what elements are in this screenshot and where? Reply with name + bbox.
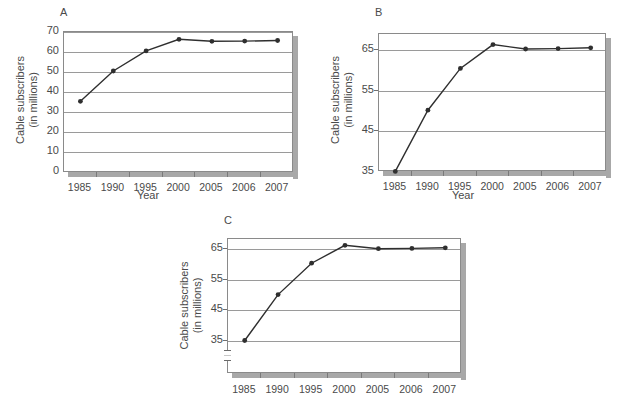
x-tick-label-c: 2007 (424, 383, 465, 395)
plot-wrap-b: 65 55 45 35 1985 1990 1995 2000 2005 200… (378, 33, 610, 176)
plot-area-b (378, 33, 606, 171)
y-tick-label-c: 35 (197, 333, 223, 345)
x-tick-mark-c (260, 373, 261, 378)
x-tick-mark-c (428, 373, 429, 378)
series-line-a (64, 32, 294, 173)
x-tick-mark-c (361, 373, 362, 378)
y-tick-mark-c (223, 340, 227, 341)
y-axis-title-line2-b: (in millions) (342, 72, 354, 128)
y-tick-mark-c (223, 279, 227, 280)
y-axis-title-line2-a: (in millions) (27, 72, 39, 128)
y-tick-label-a: 30 (33, 104, 59, 116)
y-axis-break-icon-c (224, 350, 231, 361)
y-tick-label-a: 60 (33, 44, 59, 56)
x-tick-mark-c (294, 373, 295, 378)
y-tick-mark-c (223, 248, 227, 249)
y-axis-title-a: Cable subscribers (in millions) (14, 40, 39, 160)
x-tick-mark-a (162, 172, 163, 177)
chart-panel-b: B Cable subscribers (in millions) 65 (313, 0, 626, 203)
y-tick-label-a: 40 (33, 84, 59, 96)
panel-label-c: C (224, 214, 232, 226)
chart-panel-c: C Cable subscribers (in millions) (186, 203, 499, 406)
y-axis-title-line1-b: Cable subscribers (329, 56, 341, 144)
y-tick-label-c: 65 (197, 241, 223, 253)
y-axis-title-b: Cable subscribers (in millions) (329, 40, 354, 160)
y-tick-mark-b (374, 130, 378, 131)
x-tick-mark-b (411, 171, 412, 176)
y-tick-mark-c (223, 309, 227, 310)
x-tick-label-b: 2007 (569, 180, 610, 192)
x-tick-mark-b (443, 171, 444, 176)
x-tick-mark-b (541, 171, 542, 176)
x-tick-mark-b (573, 171, 574, 176)
y-tick-label-b: 35 (348, 164, 374, 176)
panel-label-a: A (60, 6, 68, 18)
x-tick-mark-b (508, 171, 509, 176)
x-tick-mark-c (327, 373, 328, 378)
y-tick-label-c: 55 (197, 272, 223, 284)
plot-area-c (227, 238, 461, 373)
plot-wrap-a: 70 60 50 40 30 20 10 0 1985 1990 1995 20… (63, 31, 295, 174)
y-tick-label-b: 55 (348, 83, 374, 95)
y-tick-mark-b (374, 90, 378, 91)
y-axis-title-line1-c: Cable subscribers (178, 261, 190, 349)
y-tick-label-b: 65 (348, 42, 374, 54)
plot-area-a (63, 31, 293, 172)
x-tick-mark-c (394, 373, 395, 378)
x-axis-title-a: Year (118, 189, 178, 201)
x-tick-mark-a (260, 172, 261, 177)
x-tick-mark-a (96, 172, 97, 177)
series-line-b (379, 34, 607, 172)
y-tick-mark-b (374, 49, 378, 50)
series-line-c (228, 239, 462, 374)
x-tick-label-a: 2007 (256, 181, 297, 193)
x-tick-mark-a (129, 172, 130, 177)
y-tick-label-a: 70 (33, 24, 59, 36)
x-tick-mark-a (194, 172, 195, 177)
chart-panel-a: A Cable subscribers (in millions) (0, 0, 313, 203)
panel-label-b: B (375, 6, 383, 18)
y-tick-label-c: 45 (197, 302, 223, 314)
y-tick-label-a: 50 (33, 64, 59, 76)
plot-wrap-c: 65 55 45 35 1985 1990 1995 2000 2005 200… (227, 238, 467, 388)
y-tick-label-a: 0 (33, 164, 59, 176)
x-tick-mark-a (227, 172, 228, 177)
y-tick-label-b: 45 (348, 123, 374, 135)
x-tick-mark-b (476, 171, 477, 176)
y-axis-title-line1-a: Cable subscribers (14, 56, 26, 144)
x-axis-title-b: Year (433, 189, 493, 201)
y-tick-label-a: 10 (33, 144, 59, 156)
y-tick-label-a: 20 (33, 124, 59, 136)
